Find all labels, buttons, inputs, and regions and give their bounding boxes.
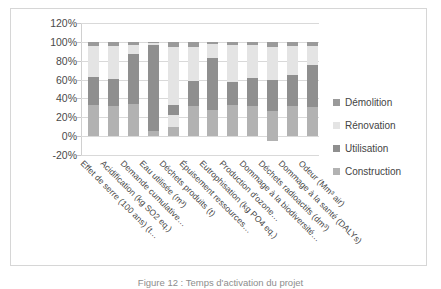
- bar-segment: [287, 42, 298, 46]
- bar-segment: [168, 47, 179, 105]
- bar-segment: [188, 47, 199, 82]
- legend-label: Rénovation: [345, 120, 396, 131]
- bar-segment: [108, 79, 119, 106]
- bar-column: [287, 23, 298, 155]
- y-axis-labels: 120%100%80%60%40%20%0%-20%: [17, 9, 77, 265]
- bar-segment: [128, 45, 139, 54]
- plot-area: [81, 23, 319, 155]
- y-tick-label: 40%: [56, 93, 77, 103]
- bar-segment: [207, 44, 218, 58]
- bar-segment: [307, 107, 318, 136]
- bar-segment: [207, 110, 218, 136]
- bar-segment: [287, 75, 298, 106]
- bar-segment: [267, 42, 278, 47]
- bar-segment: [168, 115, 179, 126]
- bar-segment: [148, 43, 159, 45]
- bar-column: [108, 23, 119, 155]
- bar-segment: [188, 81, 199, 106]
- legend-swatch-icon: [333, 168, 340, 175]
- chart-legend: DémolitionRénovationUtilisationConstruct…: [333, 97, 429, 189]
- y-tick-label: 120%: [50, 18, 77, 28]
- y-tick-label: -20%: [52, 150, 77, 160]
- bar-column: [307, 23, 318, 155]
- bar-segment: [267, 80, 278, 111]
- y-tick-label: 0%: [62, 131, 77, 141]
- bar-segment: [128, 104, 139, 136]
- bar-segment: [227, 82, 238, 105]
- bar-segment: [108, 46, 119, 79]
- y-tick-mark: [77, 117, 81, 118]
- bar-segment: [207, 42, 218, 44]
- y-tick-mark: [77, 23, 81, 24]
- bar-segment: [247, 78, 258, 106]
- bar-column: [148, 23, 159, 155]
- bar-column: [207, 23, 218, 155]
- bar-segment: [307, 46, 318, 66]
- bar-segment: [247, 42, 258, 45]
- bar-segment: [148, 45, 159, 132]
- bar-segment: [188, 106, 199, 136]
- bar-segment: [227, 105, 238, 136]
- bar-segment: [267, 47, 278, 80]
- legend-swatch-icon: [333, 99, 340, 106]
- y-tick-mark: [77, 80, 81, 81]
- y-tick-label: 100%: [50, 37, 77, 47]
- bar-segment: [108, 106, 119, 136]
- gridline: [81, 155, 319, 156]
- y-tick-mark: [77, 155, 81, 156]
- legend-label: Démolition: [345, 97, 392, 108]
- x-axis-labels: Effet de serre (100 ans) (t…Acidificatio…: [81, 157, 371, 267]
- legend-item[interactable]: Rénovation: [333, 120, 429, 131]
- y-tick-label: 80%: [56, 56, 77, 66]
- bar-segment: [88, 77, 99, 105]
- chart-frame: 120%100%80%60%40%20%0%-20% Effet de serr…: [10, 8, 427, 266]
- bar-segment: [128, 42, 139, 45]
- bar-segment: [247, 106, 258, 136]
- y-tick-mark: [77, 42, 81, 43]
- bar-segment: [207, 58, 218, 110]
- bar-column: [227, 23, 238, 155]
- bar-column: [267, 23, 278, 155]
- bar-segment: [148, 131, 159, 136]
- bar-column: [128, 23, 139, 155]
- legend-label: Utilisation: [345, 143, 388, 154]
- bar-segment: [287, 106, 298, 136]
- legend-item[interactable]: Construction: [333, 166, 429, 177]
- bar-segment: [267, 111, 278, 141]
- legend-item[interactable]: Démolition: [333, 97, 429, 108]
- legend-item[interactable]: Utilisation: [333, 143, 429, 154]
- bar-segment: [287, 46, 298, 75]
- legend-label: Construction: [345, 166, 401, 177]
- bar-segment: [247, 45, 258, 78]
- y-tick-mark: [77, 61, 81, 62]
- y-tick-mark: [77, 136, 81, 137]
- y-tick-label: 60%: [56, 75, 77, 85]
- y-tick-mark: [77, 98, 81, 99]
- bar-column: [88, 23, 99, 155]
- bar-segment: [168, 42, 179, 47]
- bar-segment: [307, 42, 318, 46]
- bar-segment: [148, 42, 159, 43]
- bar-column: [247, 23, 258, 155]
- bar-segment: [88, 105, 99, 136]
- bar-column: [188, 23, 199, 155]
- bar-segment: [227, 42, 238, 45]
- bar-segment: [128, 54, 139, 104]
- bar-segment: [188, 42, 199, 47]
- bar-segment: [227, 45, 238, 83]
- plot-wrapper: 120%100%80%60%40%20%0%-20% Effet de serr…: [11, 9, 426, 265]
- legend-swatch-icon: [333, 145, 340, 152]
- legend-swatch-icon: [333, 122, 340, 129]
- bar-segment: [88, 42, 99, 46]
- figure-caption: Figure 12 : Temps d'activation du projet: [0, 277, 441, 289]
- bar-segment: [108, 42, 119, 46]
- y-tick-label: 20%: [56, 112, 77, 122]
- bar-segment: [88, 46, 99, 77]
- bar-segment: [307, 65, 318, 106]
- bar-column: [168, 23, 179, 155]
